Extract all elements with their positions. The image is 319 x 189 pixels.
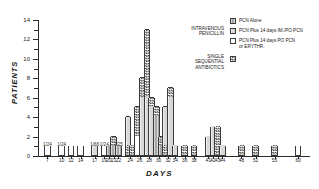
bar-day-17: 1/66 [91,146,98,156]
bar-segment-24-light [126,116,131,145]
y-tick-11 [34,49,38,50]
bar-day-12 [68,146,75,156]
bar-annotation-17: 1/66 [90,142,99,147]
bar-day-44 [219,146,226,156]
legend-group-single-sequential: SINGLE SEQUENTIAL ANTIBIOTICS [176,54,224,70]
x-tick-label-48: 48 [239,158,244,163]
x-tick-label-30: 30 [156,158,161,163]
y-tick-5 [34,107,38,108]
bar-segment-33-check [168,87,173,97]
y-tick-label-8: 8 [27,75,30,81]
x-tick-label-51: 51 [253,158,258,163]
x-tick-label-60: 60 [296,158,301,163]
x-tick-label-44: 44 [220,158,225,163]
bar-segment-34-light [173,145,178,155]
x-tick-label-24: 24 [128,158,133,163]
y-tick-10: 10 [33,59,38,60]
legend-item-pcn-alone: PCN Alone [230,18,261,24]
x-axis-title: DAYS [0,169,319,178]
bar-day-36 [181,146,188,156]
bar-annotation-10: 1/24 [57,142,66,147]
y-tick-3 [34,127,38,128]
bar-segment-12-open [69,145,74,155]
legend: INTRAVENOUS PENICILLIN SINGLE SEQUENTIAL… [176,12,318,70]
y-tick-label-12: 12 [23,36,30,42]
bar-day-51 [252,146,259,156]
bar-segment-29-check [149,97,154,107]
x-tick-label-7: 7 [46,158,49,163]
bar-day-55 [271,146,278,156]
bar-segment-48-check [239,145,244,155]
x-tick-label-17: 17 [92,158,97,163]
y-tick-2: 2 [33,137,38,138]
y-tick-4: 4 [33,117,38,118]
legend-swatch-pcn-plus-po-erythr [230,38,236,44]
x-tick-label-26: 26 [137,158,142,163]
bar-segment-44-light [220,145,225,155]
y-tick-label-6: 6 [27,95,30,101]
bar-annotation-22: 1/25 [114,142,123,147]
legend-swatch-pcn-alone [230,18,236,24]
y-tick-8: 8 [33,78,38,79]
bar-day-14 [77,146,84,156]
y-tick-13 [34,30,38,31]
x-tick-label-22: 22 [116,158,121,163]
x-tick-label-34: 34 [173,158,178,163]
legend-swatch-pcn-plus-im-po [230,28,236,34]
bar-segment-51-check [253,145,258,155]
bar-day-10: 1/24 [58,146,65,156]
y-tick-label-10: 10 [23,56,30,62]
x-tick-label-32: 32 [165,158,170,163]
y-tick-12: 12 [33,39,38,40]
x-tick-label-28: 28 [146,158,151,163]
y-tick-9 [34,69,38,70]
bar-day-60 [295,146,302,156]
bar-segment-28-check [145,29,150,97]
bar-segment-55-check [272,145,277,155]
y-axis-title: PATIENTS [10,47,19,119]
x-tick-label-14: 14 [78,158,83,163]
x-tick-label-10: 10 [59,158,64,163]
bar-segment-60-open [296,145,301,155]
y-tick-0: 0 [33,156,38,157]
bar-annotation-7: 1/24 [43,142,52,147]
legend-label-pcn-plus-im-po: PCN Plus 14 days IM./PO PCN [239,28,303,34]
legend-swatch-single-sequential [230,56,236,62]
y-tick-7 [34,88,38,89]
y-tick-label-0: 0 [27,153,30,159]
bar-segment-14-open [78,145,83,155]
legend-label-pcn-plus-po-erythr: PCN Plus 14 days PO PCN or ERYTHR. [239,38,295,49]
bar-segment-38-check [192,145,197,155]
x-tick-label-38: 38 [191,158,196,163]
x-tick-label-55: 55 [272,158,277,163]
y-tick-14: 14 [33,20,38,21]
x-tick-label-12: 12 [68,158,73,163]
y-axis-line [38,20,39,156]
legend-item-single-sequential [230,56,239,62]
bar-day-48 [238,146,245,156]
y-tick-6: 6 [33,98,38,99]
chart-figure: PATIENTS DAYS 02468101214 1/241/241/661/… [0,0,319,189]
legend-label-pcn-alone: PCN Alone [239,18,261,24]
y-tick-label-4: 4 [27,114,30,120]
bar-day-34 [172,146,179,156]
legend-item-pcn-plus-im-po: PCN Plus 14 days IM./PO PCN [230,28,303,34]
y-tick-label-14: 14 [23,17,30,23]
y-tick-label-2: 2 [27,134,30,140]
legend-item-pcn-plus-po-erythr: PCN Plus 14 days PO PCN or ERYTHR. [230,38,295,49]
legend-group-intravenous-penicillin: INTRAVENOUS PENICILLIN [176,26,224,37]
x-axis-line [38,156,310,157]
bar-segment-36-check [182,145,187,155]
bar-day-7: 1/24 [44,146,51,156]
x-tick-label-36: 36 [182,158,187,163]
bar-day-22: 1/25 [115,146,122,156]
y-tick-1 [34,146,38,147]
bar-day-38 [191,146,198,156]
bar-segment-30-check [154,106,159,116]
